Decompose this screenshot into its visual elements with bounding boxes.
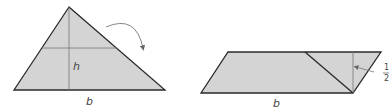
- triangle-figure: h b: [14, 7, 165, 108]
- triangle-to-parallelogram-diagram: h b 1 2 b: [0, 0, 389, 112]
- parallelogram-base-label: b: [273, 97, 280, 110]
- triangle-base-label: b: [86, 95, 93, 108]
- parallelogram-shape: [201, 52, 381, 93]
- parallelogram-figure: 1 2 b: [201, 52, 389, 110]
- half-height-numerator: 1: [384, 63, 389, 72]
- half-height-denominator: 2: [384, 74, 389, 83]
- triangle-height-label: h: [73, 60, 80, 73]
- triangle-shape: [14, 7, 165, 90]
